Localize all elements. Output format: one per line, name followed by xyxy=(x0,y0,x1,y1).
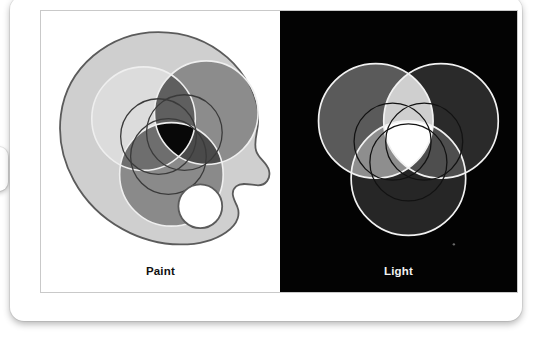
screenshot-stage: Paint xyxy=(0,0,540,341)
paint-svg xyxy=(41,11,280,292)
comparison-panels: Paint xyxy=(40,10,518,293)
light-illustration xyxy=(280,11,517,292)
adjacent-card-edge xyxy=(0,147,8,191)
palette-thumb-hole xyxy=(178,184,222,228)
light-stray-speck xyxy=(453,243,455,245)
panel-light: Light xyxy=(280,11,517,292)
panel-label-light: Light xyxy=(280,265,517,277)
paint-illustration xyxy=(41,11,280,292)
panel-paint: Paint xyxy=(41,11,280,292)
light-svg xyxy=(280,11,517,292)
panel-label-paint: Paint xyxy=(41,265,280,277)
figure-card: Paint xyxy=(10,0,522,321)
